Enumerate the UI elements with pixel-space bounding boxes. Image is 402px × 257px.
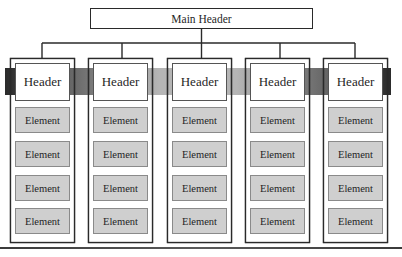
element-label: Element — [182, 149, 217, 160]
element-label: Element — [260, 216, 295, 227]
element-label: Element — [103, 216, 138, 227]
bottom-rule — [0, 247, 402, 249]
columns: HeaderElementElementElementElementHeader… — [11, 59, 388, 243]
element-label: Element — [182, 115, 217, 126]
column-element: Element — [329, 176, 383, 201]
column-element: Element — [329, 209, 383, 234]
column-element: Element — [94, 176, 148, 201]
column-header-label: Header — [181, 74, 219, 89]
column-element: Element — [329, 108, 383, 133]
column-element: Element — [329, 142, 383, 167]
column-element: Element — [251, 108, 305, 133]
element-label: Element — [103, 183, 138, 194]
element-label: Element — [25, 115, 60, 126]
column-element: Element — [16, 209, 70, 234]
column-element: Element — [94, 142, 148, 167]
column-header-label: Header — [24, 74, 62, 89]
element-label: Element — [25, 216, 60, 227]
column-element: Element — [173, 209, 227, 234]
element-label: Element — [338, 216, 373, 227]
column-element: Element — [16, 108, 70, 133]
column-header-label: Header — [102, 74, 140, 89]
column-1: HeaderElementElementElementElement — [11, 59, 75, 243]
element-label: Element — [338, 183, 373, 194]
column-5: HeaderElementElementElementElement — [324, 59, 388, 243]
element-label: Element — [338, 149, 373, 160]
element-label: Element — [260, 183, 295, 194]
column-header-label: Header — [259, 74, 297, 89]
element-label: Element — [25, 149, 60, 160]
column-element: Element — [251, 209, 305, 234]
column-element: Element — [251, 142, 305, 167]
element-label: Element — [260, 115, 295, 126]
connector-lines — [42, 29, 355, 60]
element-label: Element — [103, 115, 138, 126]
column-element: Element — [251, 176, 305, 201]
column-2: HeaderElementElementElementElement — [89, 59, 153, 243]
column-element: Element — [173, 176, 227, 201]
hierarchy-diagram: Main Header HeaderElementElementElementE… — [0, 0, 402, 257]
column-header-label: Header — [337, 74, 375, 89]
element-label: Element — [338, 115, 373, 126]
column-element: Element — [16, 176, 70, 201]
column-4: HeaderElementElementElementElement — [246, 59, 310, 243]
main-header-label: Main Header — [171, 13, 232, 25]
column-element: Element — [94, 108, 148, 133]
column-element: Element — [16, 142, 70, 167]
column-3: HeaderElementElementElementElement — [168, 59, 232, 243]
column-element: Element — [173, 142, 227, 167]
column-element: Element — [173, 108, 227, 133]
element-label: Element — [182, 183, 217, 194]
element-label: Element — [260, 149, 295, 160]
element-label: Element — [182, 216, 217, 227]
element-label: Element — [103, 149, 138, 160]
main-header: Main Header — [91, 9, 313, 29]
column-element: Element — [94, 209, 148, 234]
element-label: Element — [25, 183, 60, 194]
